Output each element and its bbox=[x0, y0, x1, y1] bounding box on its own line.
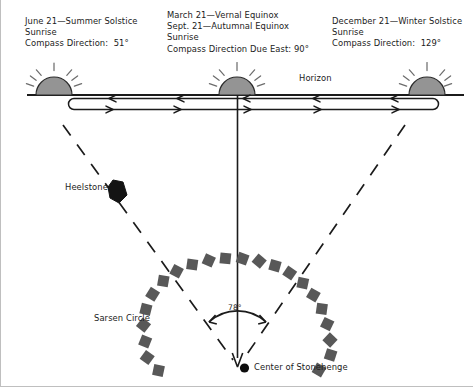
sarsen-stone-icon bbox=[316, 303, 328, 315]
sightline-equinox-axis bbox=[232, 95, 242, 367]
sarsen-stone-icon bbox=[282, 266, 297, 281]
sun-icon-winter-solstice bbox=[399, 63, 451, 96]
label-angle-78: 78° bbox=[228, 302, 242, 313]
sarsen-stone-icon bbox=[152, 364, 165, 377]
sarsen-stone-icon bbox=[322, 332, 337, 347]
sarsen-stone-icon bbox=[140, 350, 155, 365]
sarsen-stone-icon bbox=[268, 259, 281, 272]
sarsen-stone-icon bbox=[145, 287, 160, 302]
label-summer-solstice: June 21—Summer Solstice Sunrise Compass … bbox=[25, 16, 138, 50]
label-winter-solstice: December 21—Winter Solstice Sunrise Comp… bbox=[332, 16, 462, 50]
label-heelstone: Heelstone bbox=[65, 182, 108, 193]
sarsen-stone-icon bbox=[306, 288, 321, 303]
sun-icon-summer-solstice bbox=[26, 63, 81, 95]
diagram-canvas: June 21—Summer Solstice Sunrise Compass … bbox=[0, 0, 473, 387]
center-point-icon bbox=[240, 363, 249, 372]
sarsen-stone-icon bbox=[186, 258, 198, 270]
sarsen-stone-icon bbox=[296, 277, 309, 290]
heelstone-marker-icon bbox=[108, 180, 127, 203]
label-center-of-stonehenge: Center of Stonehenge bbox=[254, 362, 348, 373]
sun-icon-equinox bbox=[209, 63, 264, 96]
label-horizon: Horizon bbox=[299, 73, 332, 84]
sarsen-stone-icon bbox=[219, 252, 231, 264]
sarsen-stone-icon bbox=[157, 275, 170, 288]
diagram-graphics bbox=[1, 0, 473, 387]
sarsen-stone-icon bbox=[252, 253, 267, 268]
sarsen-stone-icon bbox=[320, 317, 334, 331]
sarsen-stone-icon bbox=[324, 348, 338, 362]
sarsen-stone-icon bbox=[169, 264, 184, 279]
label-sarsen-circle: Sarsen Circle bbox=[94, 313, 150, 324]
sarsen-stone-icon bbox=[138, 334, 152, 348]
sarsen-stone-icon bbox=[202, 253, 216, 267]
sunrise-shift-track bbox=[69, 95, 439, 113]
label-equinox: March 21—Vernal Equinox Sept. 21—Autumna… bbox=[167, 10, 309, 55]
